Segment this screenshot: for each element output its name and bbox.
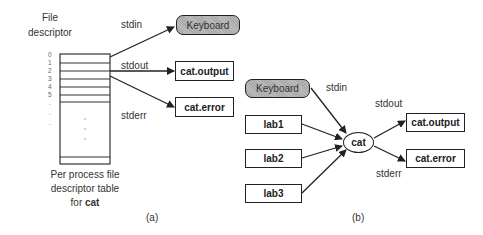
stdin-label-a: stdin [121, 20, 142, 30]
subfigure-label-a: (a) [146, 212, 158, 223]
caption-process-name: cat [85, 197, 99, 208]
fd-index-1: 1 [48, 60, 52, 67]
stdin-label-b: stdin [326, 83, 347, 93]
subfigure-label-b: (b) [352, 212, 364, 223]
table-caption-line2: descriptor table [35, 184, 135, 194]
fd-index-5: 5 [48, 92, 52, 99]
fd-index-3: 3 [48, 76, 52, 83]
fd-table [60, 54, 110, 164]
cat-output-node-b: cat.output [406, 113, 465, 132]
cat-error-node-a: cat.error [175, 97, 234, 117]
table-caption-line3: for cat [35, 198, 135, 208]
input-node-lab3: lab3 [245, 184, 302, 203]
stderr-label-a: stderr [121, 111, 147, 121]
stdout-label-b: stdout [375, 99, 402, 109]
fd-index-dot: . [49, 100, 51, 107]
fd-index-4: 4 [48, 84, 52, 91]
keyboard-node-a: Keyboard [176, 15, 240, 35]
table-caption-line1: Per process file [35, 170, 135, 180]
table-dots [84, 118, 86, 140]
stderr-label-b: stderr [376, 169, 402, 179]
cat-error-node-b: cat.error [406, 149, 465, 168]
fd-heading-line2: descriptor [15, 28, 85, 38]
input-node-lab1: lab1 [245, 115, 302, 134]
keyboard-node-b: Keyboard [245, 79, 310, 98]
stdout-label-a: stdout [121, 61, 148, 71]
fd-index-2: 2 [48, 68, 52, 75]
fd-index-dot: . [49, 120, 51, 127]
process-node-cat: cat [343, 132, 374, 153]
caption-prefix: for [71, 197, 85, 208]
cat-output-node-a: cat.output [175, 61, 234, 81]
fd-index-dot: . [49, 110, 51, 117]
fd-index-0: 0 [48, 52, 52, 59]
fd-heading-line1: File [20, 13, 80, 23]
input-node-lab2: lab2 [245, 149, 302, 168]
